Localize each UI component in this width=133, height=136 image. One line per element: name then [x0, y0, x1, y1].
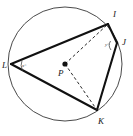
figure-canvas: I J K L P x° y° — [0, 0, 133, 136]
chord-jk — [97, 43, 117, 110]
center-point-dot — [62, 61, 67, 66]
vertex-label-l: L — [1, 60, 7, 70]
radius-pk — [65, 64, 97, 110]
radius-pi — [65, 24, 108, 64]
geometry-figure: I J K L P x° y° — [0, 0, 133, 136]
angle-label-l: x° — [21, 63, 26, 68]
chord-li — [11, 24, 108, 64]
angle-label-j: y° — [104, 42, 109, 47]
angle-arc-j — [109, 41, 111, 50]
vertex-label-k: K — [97, 116, 105, 126]
vertex-label-i: I — [112, 9, 117, 19]
vertex-label-j: J — [122, 37, 127, 47]
center-label-p: P — [57, 68, 64, 78]
chord-ij — [108, 24, 117, 43]
